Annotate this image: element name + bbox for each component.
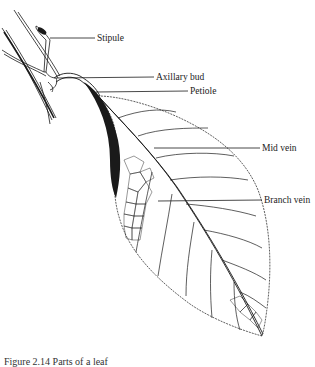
leader-petiole: [96, 91, 188, 92]
label-branch-vein: Branch vein: [264, 195, 310, 205]
label-stipule: Stipule: [97, 33, 124, 43]
reticulate-network: [124, 156, 262, 328]
figure-caption: Figure 2.14 Parts of a leaf: [4, 356, 108, 367]
axillary-bud: [46, 72, 57, 92]
caption-number: Figure 2.14: [4, 356, 50, 367]
caption-text: Parts of a leaf: [53, 356, 108, 367]
label-petiole: Petiole: [190, 86, 216, 96]
mid-vein: [98, 96, 263, 336]
label-axillary-bud: Axillary bud: [156, 72, 205, 82]
label-mid-vein: Mid vein: [262, 143, 297, 153]
leader-branch-vein: [158, 200, 262, 201]
leader-lines: [50, 38, 262, 201]
stem: [2, 10, 60, 124]
